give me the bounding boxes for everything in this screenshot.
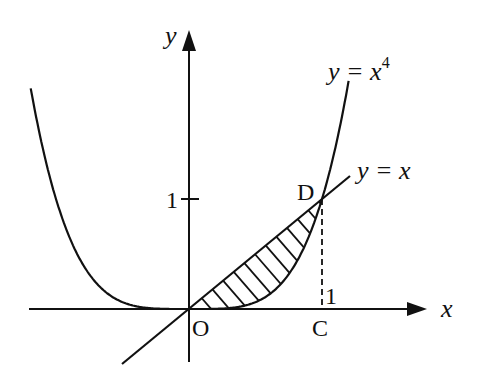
curve-label-exponent: 4 <box>382 54 390 71</box>
origin-label: O <box>192 315 209 341</box>
y-axis-label: y <box>162 21 177 50</box>
diagram-canvas: y x 1 1 O C D y = x y = x4 <box>0 0 478 382</box>
x-tick-label: 1 <box>325 283 337 309</box>
hatch-line <box>251 249 316 324</box>
hatch-line <box>282 223 347 298</box>
point-d-label: D <box>297 179 314 205</box>
curve-label-base: y = x <box>325 57 382 86</box>
line-label: y = x <box>354 156 411 185</box>
hatch-line <box>219 275 284 350</box>
hatch-line <box>229 267 294 342</box>
hatch-line <box>208 284 273 359</box>
x-axis-label: x <box>440 294 453 323</box>
hatch-line <box>261 240 326 315</box>
y-axis-arrow-icon <box>182 30 196 51</box>
hatch-line <box>304 205 369 280</box>
y-tick-label: 1 <box>166 187 178 213</box>
hatch-line <box>314 196 379 271</box>
hatch-line <box>240 258 305 333</box>
line-label-text: y = x <box>354 156 411 185</box>
point-c-label: C <box>312 315 328 341</box>
curve-label: y = x4 <box>325 54 390 86</box>
shaded-region <box>197 196 379 368</box>
x-axis-arrow-icon <box>407 302 427 316</box>
graph-svg: y x 1 1 O C D y = x y = x4 <box>0 0 478 382</box>
